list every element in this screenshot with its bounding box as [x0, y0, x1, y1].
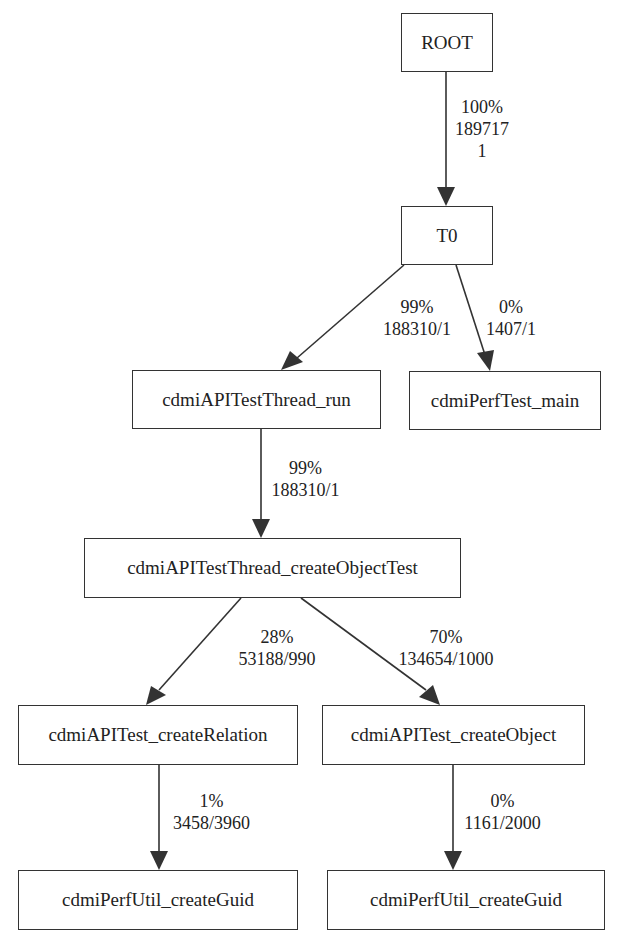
edge-time-calls: 1161/2000: [455, 812, 550, 834]
edge-percent: 1%: [164, 790, 259, 812]
node-create-object[interactable]: cdmiAPITest_createObject: [322, 705, 585, 765]
arrowhead-icon: [419, 685, 440, 705]
edge-time-calls: 1407/1: [476, 318, 546, 340]
node-create-object-test[interactable]: cdmiAPITestThread_createObjectTest: [84, 538, 461, 598]
edge-label-create-relation-to-create-guid-1: 1% 3458/3960: [164, 790, 259, 834]
edge-percent: 0%: [476, 296, 546, 318]
edge-time-calls: 188310/1: [372, 318, 462, 340]
node-create-guid-1[interactable]: cdmiPerfUtil_createGuid: [18, 870, 298, 930]
node-t0[interactable]: T0: [401, 206, 493, 265]
node-create-relation[interactable]: cdmiAPITest_createRelation: [18, 705, 298, 765]
edge-percent: 99%: [372, 296, 462, 318]
edge-label-thread-run-to-create-object-test: 99% 188310/1: [263, 457, 348, 501]
edge-label-root-to-t0: 100% 189717 1: [452, 96, 512, 162]
edge-time-calls: 53188/990: [222, 648, 332, 670]
node-root[interactable]: ROOT: [401, 13, 493, 72]
arrowhead-icon: [444, 851, 462, 870]
edge-percent: 99%: [263, 457, 348, 479]
arrowhead-icon: [437, 187, 455, 206]
edge-time: 189717: [452, 118, 512, 140]
arrowhead-icon: [150, 851, 168, 870]
node-thread-run[interactable]: cdmiAPITestThread_run: [132, 370, 381, 429]
edge-label-create-object-test-to-create-relation: 28% 53188/990: [222, 626, 332, 670]
edge-label-t0-to-perf-main: 0% 1407/1: [476, 296, 546, 340]
edge-percent: 70%: [386, 626, 506, 648]
node-create-guid-2[interactable]: cdmiPerfUtil_createGuid: [327, 870, 605, 930]
edge-time-calls: 134654/1000: [386, 648, 506, 670]
arrowhead-icon: [281, 351, 303, 370]
edge-percent: 28%: [222, 626, 332, 648]
arrowhead-icon: [252, 519, 270, 538]
edge-percent: 0%: [455, 790, 550, 812]
edge-label-create-object-to-create-guid-2: 0% 1161/2000: [455, 790, 550, 834]
edge-label-t0-to-thread-run: 99% 188310/1: [372, 296, 462, 340]
arrowhead-icon: [146, 686, 166, 705]
edge-calls: 1: [452, 140, 512, 162]
arrowhead-icon: [477, 350, 494, 371]
edge-time-calls: 3458/3960: [164, 812, 259, 834]
node-perf-main[interactable]: cdmiPerfTest_main: [409, 371, 601, 430]
edge-label-create-object-test-to-create-object: 70% 134654/1000: [386, 626, 506, 670]
edge-percent: 100%: [452, 96, 512, 118]
edge-time-calls: 188310/1: [263, 479, 348, 501]
